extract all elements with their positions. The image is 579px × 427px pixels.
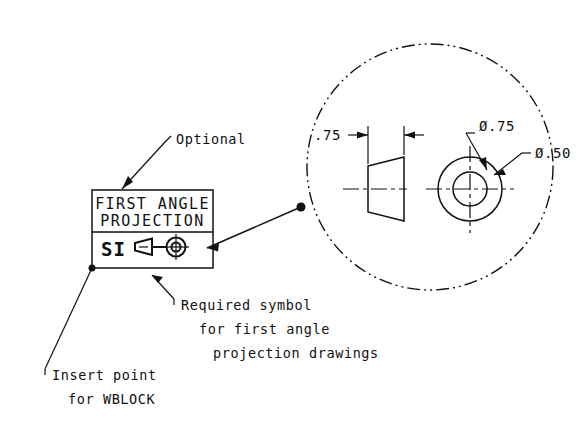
inner-diameter-label: Ø.50 <box>535 145 571 161</box>
required-symbol-note-line3: projection drawings <box>213 345 379 361</box>
insert-point-marker-dot <box>89 265 96 272</box>
optional-note-label: Optional <box>176 131 246 147</box>
required-symbol-note-line2: for first angle <box>199 321 330 337</box>
length-dimension-label: .75 <box>314 127 341 143</box>
required-symbol-note-line1: Required symbol <box>181 297 312 313</box>
first-angle-symbol-small <box>135 234 189 260</box>
detail-view-boundary-circle <box>307 44 553 290</box>
title-block-line1: FIRST ANGLE <box>95 195 210 213</box>
insert-point-leader-line <box>45 268 92 369</box>
insert-point-note-line2: for WBLOCK <box>68 391 156 407</box>
title-block-si-label: SI <box>101 238 126 260</box>
optional-leader-shoulder <box>165 136 171 142</box>
inner-diameter-leader-line <box>494 153 522 175</box>
title-block-line2: PROJECTION <box>100 212 204 230</box>
technical-drawing-canvas: FIRST ANGLE PROJECTION SI <box>0 0 579 427</box>
dimension-arrow-left <box>357 132 368 139</box>
dimension-arrow-right <box>404 132 415 139</box>
drawing-svg: FIRST ANGLE PROJECTION SI <box>0 0 579 427</box>
required-symbol-arrowhead <box>152 275 163 283</box>
outer-diameter-label: Ø.75 <box>479 118 515 134</box>
insert-point-note-line1: Insert point <box>52 367 157 383</box>
detail-leader-line <box>207 207 301 248</box>
